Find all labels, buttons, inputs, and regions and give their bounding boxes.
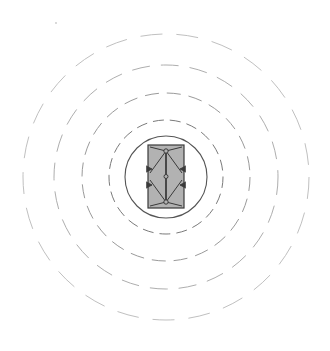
concentric-zone-diagram: Concentric Zone Diagram xyxy=(0,0,330,351)
core-structure-group xyxy=(147,145,186,208)
core-node-2 xyxy=(164,200,168,204)
core-node-0 xyxy=(164,149,168,153)
core-node-1 xyxy=(164,175,168,179)
diagram-canvas: Concentric Zone Diagram xyxy=(0,0,330,351)
stray-speck xyxy=(55,22,57,24)
